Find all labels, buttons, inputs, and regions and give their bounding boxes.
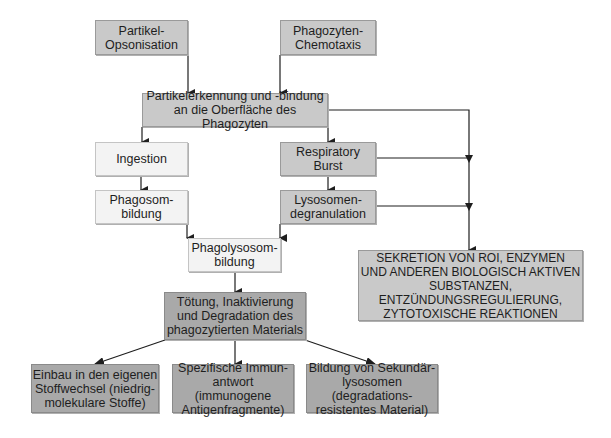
node-secretion-reactions: SEKRETION VON ROI, ENZYMEN UND ANDEREN B… [358,250,583,321]
node-particle-opsonisation: Partikel- Opsonisation [95,20,188,55]
node-respiratory-burst: Respiratory Burst [280,142,376,176]
phagocytosis-flowchart: Partikel- Opsonisation Phagozyten- Chemo… [0,0,611,438]
node-secondary-lysosomes: Bildung von Sekundär- lysosomen (degrada… [306,364,438,413]
node-killing-degradation: Tötung, Inaktivierung und Degradation de… [164,292,306,340]
node-lysosome-degranulation: Lysosomen- degranulation [280,190,376,224]
node-metabolism-incorporation: Einbau in den eigenen Stoffwechsel (nied… [31,364,159,413]
node-ingestion: Ingestion [95,142,188,176]
node-phagocyte-chemotaxis: Phagozyten- Chemotaxis [280,20,376,55]
node-phagosome-formation: Phagosom- bildung [95,190,188,224]
node-specific-immune-response: Spezifische Immun- antwort (immunogene A… [172,364,294,413]
node-phagolysosome-formation: Phagolysosom- bildung [188,238,281,272]
node-particle-recognition: Partikelerkennung und -bindung an die Ob… [142,93,328,127]
